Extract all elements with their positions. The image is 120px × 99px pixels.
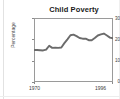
y-axis-label: Percentage bbox=[10, 12, 16, 58]
x-tick-label-0: 1970 bbox=[29, 85, 40, 91]
chart-title: Child Poverty bbox=[34, 5, 114, 14]
data-series-child-poverty bbox=[34, 18, 113, 82]
x-tick-mark-1 bbox=[112, 82, 113, 84]
figure-left-edge bbox=[3, 0, 4, 99]
series-polyline bbox=[34, 34, 113, 51]
chart-figure: Child Poverty Percentage 30 20 10 0 1970… bbox=[0, 0, 120, 99]
x-tick-mark-0 bbox=[34, 82, 35, 84]
figure-bottom-edge bbox=[0, 96, 120, 97]
x-tick-label-1: 1996 bbox=[95, 85, 106, 91]
